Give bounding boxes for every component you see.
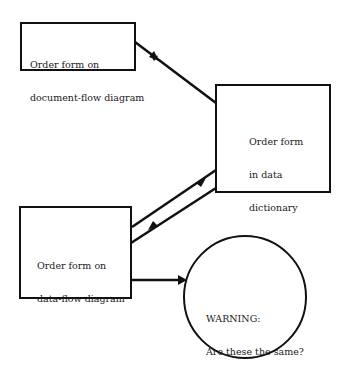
label-line: in data bbox=[249, 169, 303, 180]
label-line: Order form on bbox=[37, 260, 125, 271]
label-line: document-flow diagram bbox=[30, 92, 144, 103]
label-line: WARNING: bbox=[206, 313, 304, 324]
label-line: dictionary bbox=[249, 202, 303, 213]
edge-dataflow-to-dict bbox=[131, 188, 216, 243]
label-line: Are these the same? bbox=[206, 346, 304, 357]
label-line: Order form bbox=[249, 136, 303, 147]
node-doc-flow-label: Order form on document-flow diagram bbox=[30, 37, 144, 114]
node-data-flow-label: Order form on data-flow diagram bbox=[37, 238, 125, 315]
node-data-dict-label: Order form in data dictionary bbox=[249, 114, 303, 224]
label-line: Order form on bbox=[30, 59, 144, 70]
edge-docflow-to-dict bbox=[135, 42, 216, 103]
label-line: data-flow diagram bbox=[37, 293, 125, 304]
edge-dict-to-dataflow bbox=[132, 170, 216, 227]
node-warning-label: WARNING: Are these the same? bbox=[206, 291, 304, 368]
